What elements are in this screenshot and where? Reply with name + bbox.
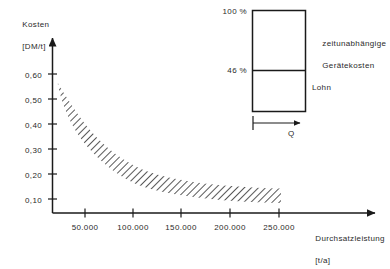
x-tick-label: 50.000 [62,222,108,233]
x-axis-title: Durchsatzleistung [t/a] [305,222,385,269]
inset-lower-label: Lohn [312,82,331,93]
y-axis-title: Kosten [DM/t] [12,8,49,63]
x-tick-label: 250.000 [256,222,302,233]
inset-upper-label-line2: Gerätekosten [322,61,374,70]
y-tick-label: 0,60 [12,70,42,81]
y-tick-label: 0,10 [12,195,42,206]
y-tick-label: 0,40 [12,120,42,131]
inset-upper-label-line1: zeitunabhängige [322,39,386,48]
x-axis-title-line2: [t/a] [315,256,330,265]
y-tick-label: 0,20 [12,170,42,181]
x-tick-label: 100.000 [110,222,156,233]
y-tick-label: 0,50 [12,95,42,106]
cost-band [58,83,282,204]
inset-split-percent: 46 % [219,65,247,76]
x-tick-label: 150.000 [158,222,204,233]
inset-upper-label: zeitunabhängige Gerätekosten [312,27,386,82]
inset-q-label: Q [288,128,295,139]
y-axis-title-line1: Kosten [22,20,49,29]
inset-box [253,11,306,131]
y-tick-label: 0,30 [12,145,42,156]
inset-top-percent: 100 % [219,6,247,17]
x-tick-label: 200.000 [207,222,253,233]
y-axis-title-line2: [DM/t] [22,42,45,51]
x-axis-title-line1: Durchsatzleistung [315,234,385,243]
